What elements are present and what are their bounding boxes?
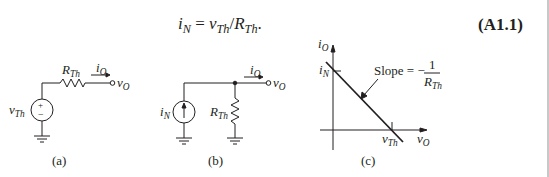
label-sub: O: [123, 82, 130, 92]
circuit-a: [31, 73, 115, 142]
caption-b: (b): [208, 153, 223, 169]
slope-numerator: 1: [429, 57, 436, 73]
label-sub: Th: [388, 138, 398, 148]
label-rth-a: RTh: [62, 62, 80, 79]
slope-pointer: [364, 79, 378, 95]
label-io-b: iO: [250, 62, 260, 79]
resistor-b: [231, 98, 239, 124]
arrow-up-icon: [182, 103, 186, 108]
label-vo-axis: vO: [417, 131, 430, 148]
label-vth-a: vTh: [9, 102, 25, 119]
label-sub: Th: [15, 109, 25, 119]
label-io-a: iO: [96, 60, 106, 77]
caption-c: (c): [361, 153, 375, 169]
label-io-axis: iO: [318, 36, 328, 53]
caption-a: (a): [52, 153, 66, 169]
resistor-a: [60, 79, 85, 87]
label-sub: O: [254, 69, 261, 79]
label-main: R: [210, 104, 218, 119]
label-sub: Th: [432, 81, 442, 91]
terminal-a: [110, 81, 115, 86]
label-sub: Th: [218, 111, 228, 121]
label-vo-a: vO: [117, 75, 130, 92]
ground-icon: [227, 138, 243, 144]
label-main: R: [424, 74, 432, 89]
label-sub: O: [423, 138, 430, 148]
y-axis-arrow-icon: [331, 45, 335, 52]
slope-denominator: RTh: [424, 74, 442, 91]
wire-a-left: [42, 83, 60, 99]
minus-sign: −: [38, 109, 44, 120]
label-sub: N: [164, 111, 170, 121]
label-sub: Th: [70, 69, 80, 79]
wire-b-top: [184, 83, 266, 101]
label-vth-intercept: vTh: [382, 131, 398, 148]
label-in-intercept: iN: [319, 62, 329, 79]
label-rth-b: RTh: [210, 104, 228, 121]
ground-icon: [176, 138, 192, 144]
ground-icon: [34, 136, 50, 142]
label-in-b: iN: [160, 104, 170, 121]
label-main: R: [62, 62, 70, 77]
terminal-b: [266, 81, 271, 86]
label-sub: O: [100, 67, 107, 77]
label-sub: O: [322, 43, 329, 53]
slope-annotation: Slope = −: [374, 63, 425, 79]
label-sub: N: [323, 69, 329, 79]
label-sub: O: [279, 82, 286, 92]
label-vo-b: vO: [273, 75, 286, 92]
